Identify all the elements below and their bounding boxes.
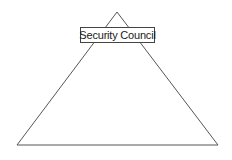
security-council-label: Security Council [80,27,155,43]
pyramid-diagram: Security Council [0,0,232,160]
pyramid-triangle [0,0,232,160]
